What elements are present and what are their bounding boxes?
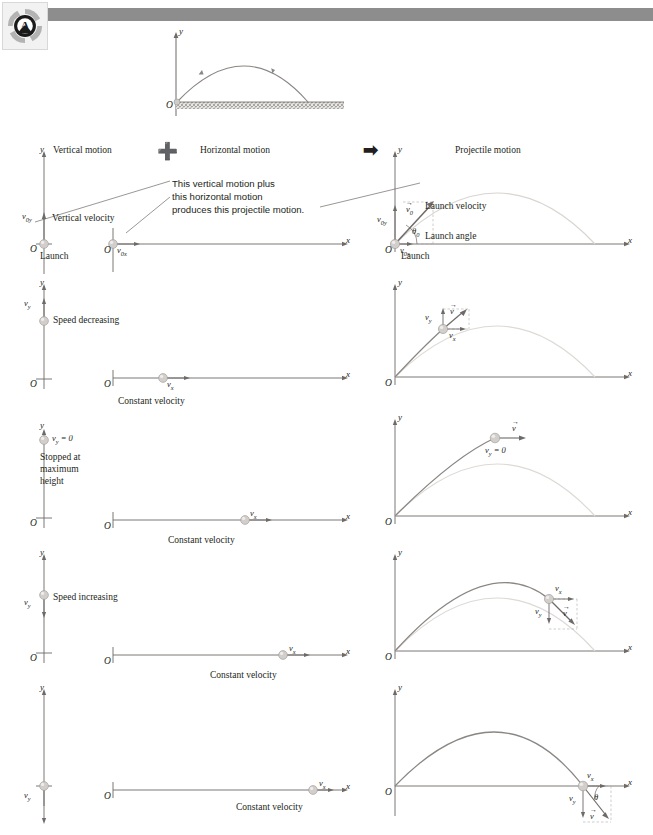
row-rising-v-vector-label: → v — [450, 306, 454, 316]
v0y-component-label: v0y — [377, 214, 387, 226]
row-apex-vy-zero-label: vy = 0 — [485, 445, 506, 457]
row-falling-projectile-y-label: y — [398, 547, 402, 558]
logo-box: A — [2, 2, 48, 50]
row-falling-vertical-y-label: y — [40, 547, 44, 558]
row-launch-horizontal-x-label: x — [346, 235, 350, 246]
row-apex-horizontal-x-label: x — [346, 511, 350, 522]
row-apex-projectile-y-label: y — [398, 412, 402, 423]
stopped-line-1: Stopped at — [40, 452, 80, 464]
row-falling-v-vector-label: → v — [563, 608, 567, 618]
column-heading-horizontal: Horizontal motion — [200, 145, 270, 156]
row-landing-horizontal-panel: x O vx — [105, 742, 353, 802]
row-launch-projectile-origin: O — [385, 245, 392, 256]
row-apex-constant-velocity-caption: Constant velocity — [168, 535, 235, 546]
row-landing-projectile-y-label: y — [398, 682, 402, 693]
row-landing-vx-component-label: vx — [587, 770, 594, 782]
row-rising-vx-label: vx — [167, 379, 174, 391]
row-landing-v-vector-label: → v — [590, 811, 594, 821]
row-apex-projectile-x-label: x — [628, 507, 632, 518]
row-falling-vy-component-label: vy — [535, 606, 542, 618]
row-rising-horizontal-origin: O — [104, 379, 111, 390]
row-launch-projectile-launch-caption: Launch — [401, 251, 430, 262]
row-apex-vertical-origin: O — [30, 518, 37, 529]
plus-operator-icon: ➕ — [157, 141, 178, 162]
row-launch-horizontal-panel: x O v0x — [105, 168, 353, 276]
row-apex-vy-zero-label: vy = 0 — [52, 433, 73, 445]
row-landing-vy-component-label: vy — [569, 793, 576, 805]
row-falling-projectile-origin: O — [385, 652, 392, 663]
row-rising-vertical-origin: O — [30, 379, 37, 390]
row-landing-vx-label: vx — [319, 778, 326, 790]
row-falling-horizontal-panel: x O vx — [105, 607, 353, 667]
row-apex-projectile-panel: x y O → v vy = 0 — [387, 416, 639, 532]
row-falling-constant-velocity-caption: Constant velocity — [210, 670, 277, 681]
row-rising-horizontal-panel: x O vx — [105, 330, 353, 390]
overview-y-axis-label: y — [179, 26, 183, 37]
row-rising-projectile-x-label: x — [628, 368, 632, 379]
v0y-label: v0y — [22, 211, 32, 223]
row-landing-constant-velocity-caption: Constant velocity — [236, 802, 303, 813]
row-falling-vertical-origin: O — [30, 653, 37, 664]
row-falling-horizontal-origin: O — [104, 656, 111, 667]
v0-vector-label: → v0 — [406, 204, 413, 216]
row-rising-vertical-y-label: y — [40, 277, 44, 288]
row-rising-vx-component-label: vx — [449, 330, 456, 342]
row-launch-projectile-y-label: y — [398, 144, 402, 155]
row-apex-v-vector-label: → v — [512, 423, 516, 433]
row-rising-projectile-y-label: y — [398, 277, 402, 288]
launch-velocity-caption: Launch velocity — [425, 201, 486, 212]
row-rising-projectile-panel: x y O vy vx → v — [387, 281, 639, 393]
speed-increasing-caption: Speed increasing — [53, 592, 118, 603]
launch-angle-caption: Launch angle — [425, 231, 476, 242]
row-launch-vertical-origin: O — [30, 244, 37, 255]
row-rising-projectile-origin: O — [385, 378, 392, 389]
column-heading-vertical: Vertical motion — [53, 145, 112, 156]
row-landing-vertical-panel: y vy — [32, 686, 56, 832]
row-landing-horizontal-origin: O — [104, 791, 111, 802]
row-rising-vy-label: vy — [24, 298, 31, 310]
row-apex-vx-label: vx — [250, 508, 257, 520]
theta0-label: θ0 — [412, 226, 419, 238]
row-rising-horizontal-x-label: x — [346, 369, 350, 380]
row-falling-projectile-x-label: x — [628, 642, 632, 653]
stopped-line-3: height — [40, 476, 80, 488]
row-launch-vertical-y-label: y — [40, 144, 44, 155]
row-apex-horizontal-panel: x O vx — [105, 472, 353, 532]
row-rising-constant-velocity-caption: Constant velocity — [118, 396, 185, 407]
row-rising-vy-component-label: vy — [425, 312, 432, 324]
overview-origin-label: O — [166, 100, 173, 111]
row-apex-vertical-y-label: y — [40, 420, 44, 431]
speed-decreasing-caption: Speed decreasing — [53, 315, 119, 326]
row-falling-vertical-panel: y O vy — [32, 551, 56, 669]
row-landing-vertical-y-label: y — [40, 682, 44, 693]
row-falling-horizontal-x-label: x — [346, 646, 350, 657]
stopped-line-2: maximum — [40, 464, 80, 476]
row-rising-vertical-panel: y O vy — [32, 281, 56, 393]
row-apex-projectile-origin: O — [385, 517, 392, 528]
circular-a-logo-icon: A — [6, 7, 44, 45]
row-launch-projectile-x-label: x — [628, 235, 632, 246]
equals-arrow-icon: ➡ — [363, 139, 378, 161]
row-landing-projectile-x-label: x — [628, 777, 632, 788]
v0x-label: v0x — [117, 245, 127, 257]
row-falling-vx-label: vx — [289, 643, 296, 655]
row-falling-projectile-panel: x y O vx vy → v — [387, 551, 639, 667]
row-landing-projectile-origin: O — [385, 787, 392, 798]
row-launch-vertical-launch-caption: Launch — [40, 251, 69, 262]
row-landing-projectile-panel: x y O vx vy θ → v — [387, 686, 639, 834]
row-falling-vy-label: vy — [24, 597, 31, 609]
row-landing-vy-label: vy — [24, 790, 31, 802]
row-launch-horizontal-origin: O — [104, 245, 111, 256]
stopped-at-maximum-height-caption: Stopped at maximum height — [40, 452, 80, 488]
row-falling-vx-component-label: vx — [555, 583, 562, 595]
row-landing-theta-label: θ — [594, 792, 598, 802]
row-apex-horizontal-origin: O — [104, 521, 111, 532]
row-landing-horizontal-x-label: x — [346, 781, 350, 792]
overview-diagram: y O — [165, 28, 355, 120]
top-banner — [32, 8, 653, 21]
